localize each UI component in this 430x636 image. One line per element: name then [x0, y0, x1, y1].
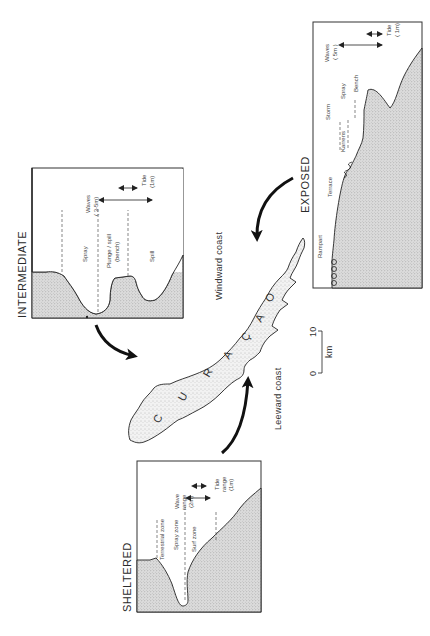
intermediate-waves-label: Waves [85, 195, 91, 213]
exposed-karrens: Karrens [340, 131, 346, 152]
intermediate-title: INTERMEDIATE [16, 231, 28, 318]
exposed-rampart: Rampart [317, 235, 323, 258]
sheltered-tide-range-label: range [221, 476, 227, 492]
exposed-to-island-arrow [257, 178, 293, 238]
intermediate-dot [86, 316, 88, 318]
leeward-coast-label: Leeward coast [273, 367, 283, 430]
intermediate-waves-value: ( 3-5m) [93, 197, 99, 216]
windward-coast-label: Windward coast [214, 232, 224, 300]
sheltered-title: SHELTERED [121, 542, 133, 612]
exposed-waves-label: Waves [324, 44, 330, 62]
intermediate-zone-plunge: Plunge / spill [106, 234, 112, 268]
scale-end: 10 [308, 326, 318, 337]
sheltered-zone-terrestrial: Terrestrial zone [159, 518, 165, 560]
intermediate-zone-spray: Spray [82, 246, 88, 262]
intermediate-zone-bench: (bench) [114, 242, 120, 262]
exposed-spray: Spray [340, 83, 346, 99]
exposed-tide-value: ( 1m) [394, 23, 400, 37]
sheltered-wave-range-label: range [181, 494, 187, 510]
exposed-title: EXPOSED [299, 156, 311, 213]
exposed-terrace: Terrace [327, 176, 333, 197]
sheltered-zone-surf: Surf zone [191, 526, 197, 552]
intermediate-panel: INTERMEDIATE Spray Plunge / spill (bench… [16, 168, 183, 318]
sheltered-tide-label: Tide [214, 478, 220, 490]
sheltered-zone-spray: Spray zone [173, 519, 179, 550]
sheltered-wave-value: (2m) [188, 496, 194, 508]
sheltered-wave-label: Wave [174, 493, 180, 509]
exposed-bench: Bench [353, 75, 359, 92]
coastal-zonation-diagram: INTERMEDIATE Spray Plunge / spill (bench… [0, 0, 430, 636]
intermediate-tide-value: (1m) [149, 176, 155, 188]
sheltered-to-island-arrow [222, 380, 248, 453]
scale-unit: km [324, 345, 334, 358]
scale-start: 0 [308, 371, 318, 376]
exposed-storm: Storm [325, 104, 331, 120]
scale-bar: 0 10 km [308, 326, 334, 376]
sheltered-rock-profile [137, 488, 261, 612]
sheltered-tide-value: (1m) [228, 479, 234, 491]
exposed-waves-value: ( 5m ) [332, 44, 338, 60]
intermediate-to-island-arrow [96, 325, 134, 356]
intermediate-zone-spill: Spill [149, 251, 155, 262]
sheltered-panel: SHELTERED Terrestrial zone Spray zone Su… [121, 461, 261, 612]
exposed-tide-label: Tide [386, 24, 392, 36]
exposed-panel: EXPOSED Rampart Terrace Storm Karrens Sp… [299, 22, 422, 288]
intermediate-tide-label: Tide [141, 174, 147, 186]
